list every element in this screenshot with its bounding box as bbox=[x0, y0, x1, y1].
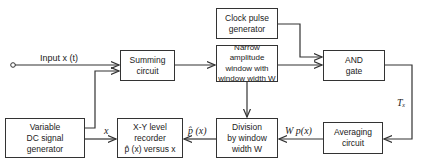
window-line-2: window with bbox=[225, 64, 268, 75]
xy-level-recorder-block: X-Y level recorder p̂ (x) versus x bbox=[117, 118, 183, 158]
recorder-line-1: X-Y level bbox=[133, 122, 167, 133]
input-label: Input x (t) bbox=[40, 53, 78, 63]
and-line-1: AND bbox=[345, 55, 363, 66]
averaging-line-2: circuit bbox=[342, 138, 364, 149]
clock-pulse-generator-block: Clock pulse generator bbox=[216, 8, 278, 39]
division-line-1: Division bbox=[232, 122, 262, 133]
clock-line-2: generator bbox=[229, 24, 265, 35]
narrow-amplitude-window-block: Narrow amplitude window with window widt… bbox=[216, 45, 278, 82]
and-line-2: gate bbox=[346, 66, 363, 77]
wire-dc-to-summing bbox=[85, 71, 119, 128]
p-hat-label: p̂ (x) bbox=[188, 125, 207, 136]
summing-circuit-block: Summing circuit bbox=[120, 50, 175, 81]
input-terminal bbox=[11, 63, 16, 68]
summing-line-1: Summing bbox=[130, 55, 166, 66]
window-line-1: Narrow amplitude bbox=[217, 43, 277, 64]
summing-line-2: circuit bbox=[136, 66, 158, 77]
averaging-line-1: Averaging bbox=[334, 127, 372, 138]
wire-clock-to-and bbox=[278, 24, 322, 57]
division-block: Division by window width W bbox=[216, 118, 278, 158]
and-gate-block: AND gate bbox=[323, 50, 385, 81]
dc-line-3: generator bbox=[27, 144, 63, 155]
dc-line-1: Variable bbox=[30, 122, 61, 133]
recorder-line-2: recorder bbox=[134, 133, 166, 144]
division-line-2: by window bbox=[227, 133, 267, 144]
clock-line-1: Clock pulse bbox=[225, 13, 269, 24]
wpx-label: W p(x) bbox=[285, 125, 312, 136]
averaging-circuit-block: Averaging circuit bbox=[323, 122, 383, 154]
x-label: x bbox=[104, 125, 108, 136]
recorder-line-3: p̂ (x) versus x bbox=[124, 144, 175, 155]
division-line-3: width W bbox=[232, 144, 262, 155]
window-line-3: window width W bbox=[218, 74, 275, 85]
variable-dc-generator-block: Variable DC signal generator bbox=[5, 118, 85, 158]
tx-label: Tₓ bbox=[397, 97, 405, 108]
dc-line-2: DC signal bbox=[27, 133, 64, 144]
